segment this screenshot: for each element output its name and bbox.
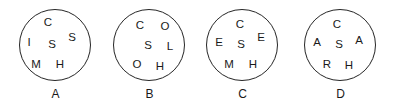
letter-d-2: S [332, 39, 346, 51]
letter-c-2: E [212, 37, 226, 49]
letter-b-3: L [163, 41, 177, 53]
letter-c-1: E [254, 32, 268, 44]
letter-a-1: S [65, 32, 79, 44]
puzzle-board: C S I S M H A C O S L O H B C E E S M H [0, 0, 404, 112]
letter-a-3: S [45, 39, 59, 51]
circle-label-c: C [192, 88, 293, 100]
letter-d-4: R [320, 59, 334, 71]
letter-b-1: O [158, 21, 172, 33]
circle-label-b: B [99, 88, 200, 100]
letter-b-4: O [130, 59, 144, 71]
letter-a-4: M [29, 59, 43, 71]
circle-group-b[interactable]: C O S L O H B [99, 0, 200, 112]
letter-b-0: C [133, 20, 147, 32]
circle-group-c[interactable]: C E E S M H C [192, 0, 293, 112]
letter-a-2: I [22, 37, 36, 49]
letter-d-5: H [342, 60, 356, 72]
letter-c-0: C [233, 19, 247, 31]
circle-group-d[interactable]: C A S A R H D [290, 0, 391, 112]
letter-b-5: H [153, 61, 167, 73]
letter-b-2: S [141, 40, 155, 52]
letter-c-4: M [222, 59, 236, 71]
letter-c-5: H [246, 59, 260, 71]
letter-a-5: H [53, 59, 67, 71]
letter-d-0: C [330, 19, 344, 31]
circle-label-d: D [290, 88, 391, 100]
letter-d-3: A [352, 35, 366, 47]
letter-a-0: C [41, 17, 55, 29]
letter-d-1: A [310, 37, 324, 49]
letter-c-3: S [234, 39, 248, 51]
circle-group-a[interactable]: C S I S M H A [5, 0, 106, 112]
circle-label-a: A [5, 88, 106, 100]
